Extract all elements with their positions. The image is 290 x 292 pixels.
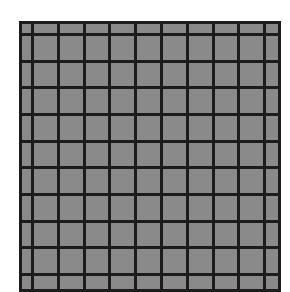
grid-figure (19, 21, 281, 291)
grid-horizontal-line (19, 113, 281, 116)
grid-horizontal-line (19, 273, 281, 276)
grid-horizontal-line (19, 166, 281, 169)
grid-horizontal-line (19, 246, 281, 249)
grid-horizontal-line (19, 33, 281, 36)
grid-horizontal-line (19, 193, 281, 196)
grid-horizontal-line (19, 140, 281, 143)
grid-horizontal-line (19, 86, 281, 89)
grid-horizontal-line (19, 21, 281, 24)
grid-horizontal-line (19, 60, 281, 63)
grid-horizontal-line (19, 220, 281, 223)
